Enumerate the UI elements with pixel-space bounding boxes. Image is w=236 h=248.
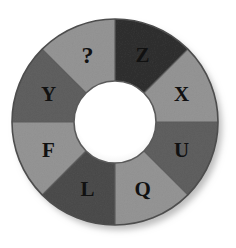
segment-label-y: Y: [41, 82, 56, 106]
segment-label-question: ?: [81, 42, 93, 68]
segment-label-z: Z: [136, 43, 150, 67]
segment-label-f: F: [42, 138, 55, 162]
letter-wheel-svg[interactable]: ZXUQLFY?: [0, 0, 236, 248]
segment-label-x: X: [174, 82, 189, 106]
figure-canvas: ZXUQLFY?: [0, 0, 236, 248]
segment-label-q: Q: [134, 177, 150, 201]
segment-label-l: L: [80, 177, 94, 201]
letter-wheel[interactable]: ZXUQLFY?: [0, 0, 236, 248]
segment-label-u: U: [174, 138, 189, 162]
